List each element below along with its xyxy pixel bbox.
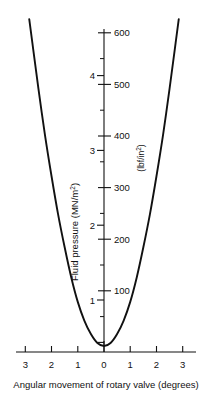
x-tick-label: 2 [49,359,54,370]
y2-axis-title-close: ) [136,144,146,147]
x-axis-title: Angular movement of rotary valve (degree… [13,379,198,390]
y2-tick-label: 100 [114,285,130,296]
y-axis-title-text: Fluid pressure (MN/m [69,190,80,281]
y2-tick-label: 400 [114,130,130,141]
y2-tick-label: 200 [114,234,130,245]
y2-tick-label: 300 [114,182,130,193]
y-tick-label: 1 [90,295,95,306]
y-axis-tick-labels-right: 100 200 300 400 500 600 [114,27,130,296]
svg-text:(lbf/in2): (lbf/in2) [135,144,146,171]
y2-tick-label: 600 [114,27,130,38]
x-tick-label: 0 [101,359,106,370]
x-tick-label: 1 [128,359,133,370]
y-axis-title-close: ) [69,183,80,186]
x-tick-label: 2 [154,359,159,370]
y-tick-label: 4 [90,70,95,81]
y-axis-tick-labels-left: 1 2 3 4 [90,70,95,305]
y-axis-major-ticks-right [104,33,111,291]
chart-figure: 1 2 3 4 10 [0,0,212,398]
y-axis-major-ticks-left [98,33,104,343]
y-tick-label: 2 [90,220,95,231]
x-tick-label: 3 [180,359,185,370]
y2-tick-label: 500 [114,79,130,90]
x-tick-label: 3 [23,359,28,370]
x-axis-tick-labels: 3 2 1 0 1 2 3 [23,359,186,370]
y2-axis-title: (lbf/in2) [135,144,146,171]
fluid-pressure-chart: 1 2 3 4 10 [0,0,212,398]
svg-text:Fluid pressure (MN/m2): Fluid pressure (MN/m2) [69,183,81,281]
y-axis-title: Fluid pressure (MN/m2) [69,183,81,281]
x-tick-label: 1 [75,359,80,370]
y-tick-label: 3 [90,145,95,156]
y2-axis-title-text: (lbf/in [136,151,146,172]
